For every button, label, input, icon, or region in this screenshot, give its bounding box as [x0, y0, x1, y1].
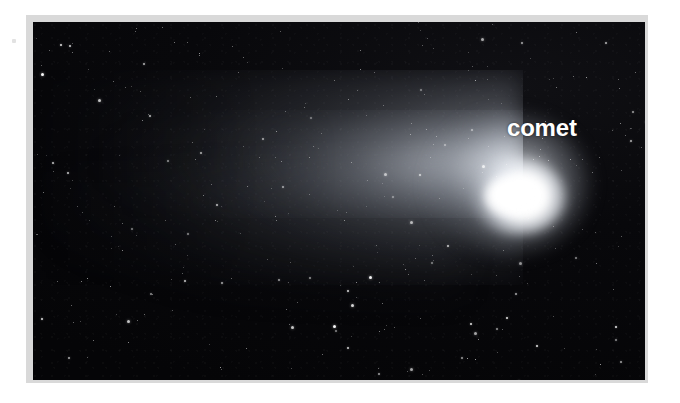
margin-speck-artifact	[12, 39, 16, 43]
page-canvas: comet	[0, 0, 680, 403]
comet-label: comet	[507, 116, 577, 140]
comet-nucleus-core	[495, 183, 531, 207]
comet-photograph: comet	[33, 22, 645, 380]
photo-frame: comet	[26, 15, 648, 383]
